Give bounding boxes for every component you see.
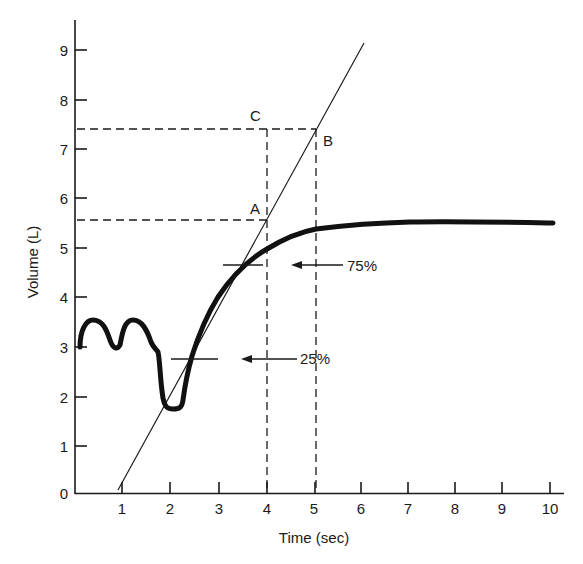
point-label-b: B [323, 132, 333, 149]
x-tick-label: 1 [118, 500, 126, 517]
y-tick-label: 3 [60, 339, 68, 356]
marker-75-label: 75% [347, 257, 377, 274]
x-ticks [122, 482, 550, 493]
y-tick-label: 9 [60, 42, 68, 59]
y-tick-labels: 0 1 2 3 4 5 6 7 8 9 [60, 42, 68, 502]
y-tick-label: 2 [60, 389, 68, 406]
y-tick-label: 4 [60, 289, 68, 306]
marker-25-label: 25% [300, 350, 330, 367]
point-label-a: A [250, 200, 260, 217]
x-tick-label: 2 [166, 500, 174, 517]
y-tick-label: 0 [60, 485, 68, 502]
y-axis-title: Volume (L) [24, 226, 41, 299]
x-tick-label: 6 [357, 500, 365, 517]
x-tick-label: 9 [498, 500, 506, 517]
x-tick-label: 5 [310, 500, 318, 517]
y-tick-label: 5 [60, 240, 68, 257]
x-tick-label: 7 [404, 500, 412, 517]
y-ticks [75, 50, 87, 446]
point-label-c: C [250, 107, 261, 124]
y-tick-label: 8 [60, 92, 68, 109]
arrow-left-icon [291, 261, 302, 269]
y-tick-label: 1 [60, 438, 68, 455]
reference-lines [77, 129, 316, 493]
x-tick-label: 8 [451, 500, 459, 517]
x-axis-title: Time (sec) [279, 529, 349, 546]
x-tick-label: 10 [542, 500, 559, 517]
arrow-left-icon [241, 355, 252, 363]
axes [75, 20, 564, 494]
y-tick-label: 7 [60, 141, 68, 158]
x-tick-label: 4 [263, 500, 271, 517]
chart: 0 1 2 3 4 5 6 7 8 9 1 2 3 4 5 6 7 8 9 10… [0, 0, 583, 564]
x-tick-label: 3 [215, 500, 223, 517]
y-tick-label: 6 [60, 190, 68, 207]
x-tick-labels: 1 2 3 4 5 6 7 8 9 10 [118, 500, 559, 517]
